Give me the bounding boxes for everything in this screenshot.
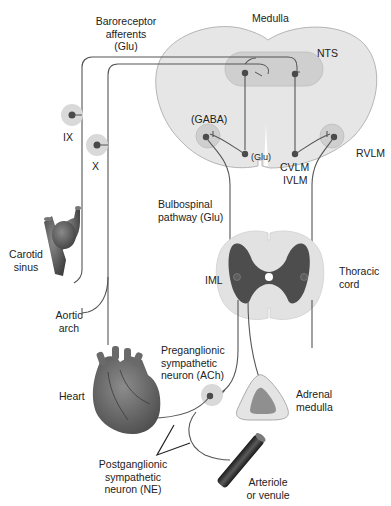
carotid-sinus-illustration: [44, 206, 81, 276]
label-postganglionic-line3: neuron (NE): [90, 483, 176, 496]
nts-neuron-right: [292, 71, 298, 77]
adrenal-gland-illustration: [237, 375, 289, 420]
label-medulla: Medulla: [252, 12, 289, 25]
label-ivlm: IVLM: [283, 174, 308, 187]
postganglionic-to-vessel: [189, 412, 230, 460]
label-heart: Heart: [59, 390, 85, 403]
label-preganglionic-neuron: Preganglionic sympathetic neuron (ACh): [161, 344, 225, 382]
label-thoracic-cord: Thoracic cord: [339, 265, 379, 290]
heart-illustration: [93, 346, 160, 434]
label-gaba: (GABA): [191, 113, 227, 126]
label-carotid-sinus: Carotid sinus: [6, 248, 46, 273]
thoracic-cord-section: [216, 231, 323, 320]
label-baroreceptor-line2: afferents: [92, 28, 160, 41]
label-postganglionic-neuron: Postganglionic sympathetic neuron (NE): [90, 458, 176, 496]
label-bulbospinal-pathway: Bulbospinal pathway (Glu): [158, 198, 223, 223]
label-x: X: [92, 160, 99, 173]
label-baroreceptor-line1: Baroreceptor: [92, 15, 160, 28]
nts-neuron-left: [242, 70, 248, 76]
label-postganglionic-line2: sympathetic: [90, 471, 176, 484]
iml-neuron-right: [301, 274, 308, 281]
label-carotid-line1: Carotid: [6, 248, 46, 261]
label-adrenal-medulla: Adrenal medulla: [296, 388, 333, 413]
label-adrenal-line2: medulla: [296, 401, 333, 414]
label-preganglionic-line3: neuron (ACh): [161, 369, 225, 382]
baroreflex-diagram: [0, 0, 391, 506]
label-cvlm: CVLM: [280, 161, 309, 174]
label-preganglionic-line2: sympathetic: [161, 357, 225, 370]
label-aortic-line2: arch: [52, 322, 86, 335]
postganglionic-pointer: [157, 425, 190, 455]
label-preganglionic-line1: Preganglionic: [161, 344, 225, 357]
iml-neuron-left: [234, 274, 241, 281]
label-iml: IML: [205, 274, 223, 287]
label-postganglionic-line1: Postganglionic: [90, 458, 176, 471]
label-arteriole-line1: Arteriole: [238, 476, 298, 489]
label-arteriole-venule: Arteriole or venule: [238, 476, 298, 501]
label-glu: (Glu): [251, 151, 271, 164]
label-rvlm: RVLM: [356, 147, 385, 160]
label-bulbospinal-line1: Bulbospinal: [158, 198, 223, 211]
label-ix: IX: [63, 131, 73, 144]
ganglion-ix-body: [69, 112, 76, 119]
label-aortic-line1: Aortic: [52, 309, 86, 322]
label-thoracic-line2: cord: [339, 278, 379, 291]
label-thoracic-line1: Thoracic: [339, 265, 379, 278]
label-carotid-line2: sinus: [6, 261, 46, 274]
label-baroreceptor-afferents: Baroreceptor afferents (Glu): [92, 15, 160, 53]
label-baroreceptor-line3: (Glu): [92, 40, 160, 53]
ganglion-x-body: [94, 142, 101, 149]
label-nts: NTS: [317, 47, 338, 60]
label-arteriole-line2: or venule: [238, 489, 298, 502]
label-bulbospinal-line2: pathway (Glu): [158, 211, 223, 224]
label-adrenal-line1: Adrenal: [296, 388, 333, 401]
label-aortic-arch: Aortic arch: [52, 309, 86, 334]
